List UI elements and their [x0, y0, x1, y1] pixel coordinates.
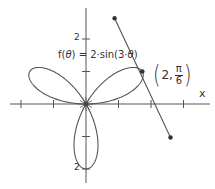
- x-axis-label: x: [199, 88, 206, 99]
- paren-close: ): [184, 63, 192, 87]
- point-of-tangency: [140, 69, 145, 74]
- origin-point: [84, 102, 89, 107]
- y-tick-label-bottom: 2: [74, 163, 80, 172]
- fraction-numerator: π: [175, 64, 183, 76]
- point-label: ( 2, π 6 ): [152, 63, 192, 87]
- fraction-denominator: 6: [176, 76, 182, 87]
- paren-open: (: [153, 63, 161, 87]
- point-theta-fraction: π 6: [175, 64, 183, 86]
- tangent-endpoint-top: [112, 16, 116, 20]
- function-body: ) = 2·sin(3·: [72, 49, 128, 60]
- function-close: ): [134, 49, 138, 60]
- y-tick-label-top: 2: [74, 33, 80, 42]
- tangent-endpoint-bottom: [168, 135, 172, 139]
- point-r: 2,: [161, 69, 172, 81]
- function-label: f(θ) = 2·sin(3·θ): [58, 50, 138, 60]
- polar-rose-chart: [0, 0, 215, 189]
